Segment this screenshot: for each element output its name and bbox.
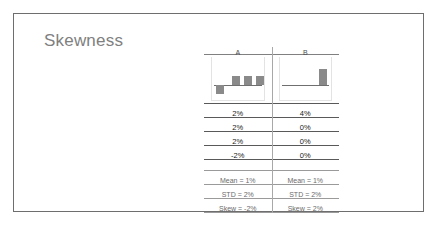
data-cell-b: 0% [272, 144, 340, 162]
data-value-a: -2% [231, 151, 244, 160]
column-header-a: A [204, 41, 272, 54]
data-value-b: 0% [300, 151, 311, 160]
chart-b [272, 55, 340, 103]
summary-value-b: Skew = 2% [288, 205, 323, 212]
page-title: Skewness [44, 31, 123, 51]
chart-b-bar-4 [319, 69, 327, 85]
summary-cell-b: Skew = 2% [272, 197, 340, 215]
chart-a-plot-area [211, 57, 265, 101]
charts-row [204, 55, 339, 103]
slide-frame: Skewness A B [13, 13, 424, 212]
chart-a [204, 55, 272, 103]
skewness-figure: A B [204, 41, 339, 213]
chart-a-bar-4 [256, 76, 264, 85]
chart-b-zero-line [282, 85, 330, 86]
summary-cell-a: Skew = -2% [204, 197, 272, 215]
chart-b-plot-area [279, 57, 333, 101]
chart-a-bar-2 [232, 76, 240, 85]
data-cell-a: -2% [204, 144, 272, 162]
summary-value-a: Skew = -2% [219, 205, 257, 212]
chart-a-bar-1 [216, 85, 224, 94]
column-header-b: B [272, 41, 340, 54]
chart-a-bar-3 [244, 76, 252, 85]
